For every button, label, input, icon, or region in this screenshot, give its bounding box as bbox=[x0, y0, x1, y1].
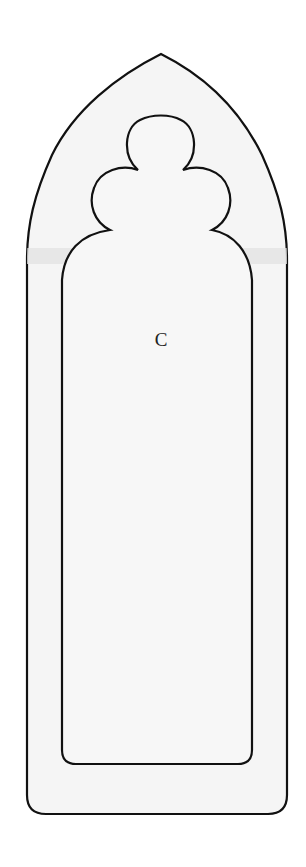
section-label: C bbox=[155, 329, 168, 350]
arch-diagram: C bbox=[0, 0, 306, 867]
